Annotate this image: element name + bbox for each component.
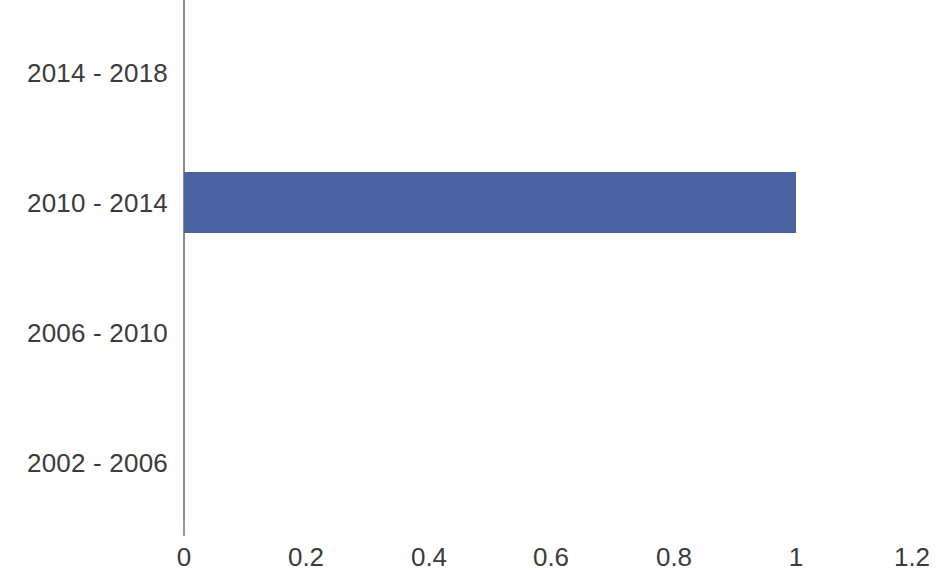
bar-2010-2014 [184,172,796,233]
y-axis-label-2002-2006: 2002 - 2006 [0,450,168,476]
x-axis-tick-0-2: 0.2 [288,542,324,572]
x-axis-tick-0-4: 0.4 [411,542,447,572]
plot-area [184,0,939,535]
y-axis-label-2006-2010: 2006 - 2010 [0,320,168,346]
y-axis-label-2010-2014: 2010 - 2014 [0,190,168,216]
x-axis-tick-0: 0 [177,542,191,572]
y-axis-label-2014-2018: 2014 - 2018 [0,60,168,86]
x-axis-labels: 0 0.2 0.4 0.6 0.8 1 1.2 [0,534,939,576]
y-axis-labels: 2014 - 2018 2010 - 2014 2006 - 2010 2002… [0,0,168,535]
x-axis-tick-1-2: 1.2 [894,542,930,572]
bar-chart: 2014 - 2018 2010 - 2014 2006 - 2010 2002… [0,0,939,576]
x-axis-tick-0-6: 0.6 [533,542,569,572]
x-axis-tick-0-8: 0.8 [656,542,692,572]
x-axis-tick-1: 1 [789,542,803,572]
